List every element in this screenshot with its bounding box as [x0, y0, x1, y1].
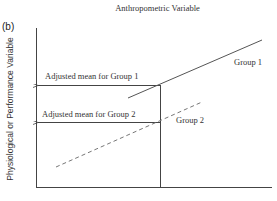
ancova-diagram: (b) Anthropometric Variable Physiologica… [0, 0, 277, 201]
panel-label: (b) [2, 21, 14, 32]
adjusted-mean-group2-label: Adjusted mean for Group 2 [42, 109, 135, 119]
y-axis-title: Physiological or Performance Variable [5, 34, 15, 184]
diagram-canvas [0, 0, 277, 201]
group1-regression-line [128, 40, 262, 98]
group2-label: Group 2 [176, 115, 204, 125]
group1-label: Group 1 [234, 57, 262, 67]
x-axis-title: Anthropometric Variable [0, 3, 277, 13]
adjusted-mean-group1-label: Adjusted mean for Group 1 [45, 71, 138, 81]
